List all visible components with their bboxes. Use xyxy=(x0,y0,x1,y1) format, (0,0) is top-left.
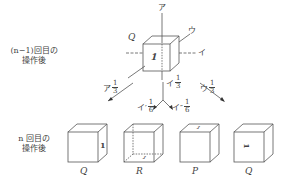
row-label-before-line2: 操作後 xyxy=(8,56,60,66)
axis-u-label: ウ xyxy=(188,26,196,36)
operation-u-den: 3 xyxy=(209,88,215,95)
operation-i-double-prime-den: 6 xyxy=(184,107,190,114)
operation-a: ア 13 xyxy=(103,80,118,95)
bottom-cube-1-face-mark: 1 xyxy=(100,140,106,150)
top-cube-label: Q xyxy=(128,32,135,42)
operation-i-double-prime-axis: イ″ xyxy=(172,101,183,112)
operation-u-axis: ウ xyxy=(200,82,208,93)
operation-i-prime-den: 6 xyxy=(148,107,154,114)
row-label-after-line2: 操作後 xyxy=(8,144,60,154)
row-label-after: n 回目の 操作後 xyxy=(8,134,60,154)
bottom-cube-4-face-mark: 1 xyxy=(242,143,252,149)
bottom-cube-2-label: R xyxy=(136,166,143,176)
row-label-before: (n−1)回目の 操作後 xyxy=(8,46,60,66)
operation-u: ウ 13 xyxy=(200,80,215,95)
operation-i-prime-axis: イ′ xyxy=(137,101,147,112)
bottom-cube-4-label: Q xyxy=(245,166,252,176)
axis-a-label: ア xyxy=(158,3,166,13)
operation-a-den: 3 xyxy=(112,88,118,95)
operation-i-den: 3 xyxy=(175,83,181,90)
bottom-cube-3-label: P xyxy=(192,166,198,176)
operation-i: イ 13 xyxy=(166,75,181,90)
operation-a-axis: ア xyxy=(103,82,111,93)
row-label-before-line1: (n−1)回目の xyxy=(8,46,60,56)
operation-i-double-prime: イ″ 16 xyxy=(172,99,190,114)
operation-i-axis: イ xyxy=(166,77,174,88)
row-label-after-line1: n 回目の xyxy=(8,134,60,144)
axis-u-line-front xyxy=(128,66,145,78)
axis-i-label: イ xyxy=(198,48,206,58)
operation-i-prime: イ′ 16 xyxy=(137,99,154,114)
bottom-cube-1-label: Q xyxy=(80,166,87,176)
